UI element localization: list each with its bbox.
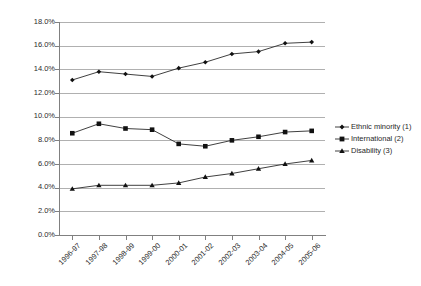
data-point-marker <box>283 130 288 135</box>
diamond-marker-icon <box>334 122 350 132</box>
data-point-marker <box>70 78 75 83</box>
data-point-marker <box>309 158 314 163</box>
data-point-marker <box>97 121 102 126</box>
legend-item-1[interactable]: Ethnic minority (1) <box>334 121 411 132</box>
legend-item-2[interactable]: International (2) <box>334 133 411 144</box>
series-line <box>72 42 311 80</box>
legend-item-3[interactable]: Disability (3) <box>334 145 411 156</box>
data-point-marker <box>203 144 208 149</box>
series-line <box>72 160 311 188</box>
data-point-marker <box>176 66 181 71</box>
series-3 <box>70 158 315 191</box>
data-point-marker <box>256 134 261 139</box>
chart-legend: Ethnic minority (1)International (2)Disa… <box>334 121 411 157</box>
data-point-marker <box>230 52 235 57</box>
data-point-marker <box>97 69 102 74</box>
data-point-marker <box>256 49 261 54</box>
data-point-marker <box>203 60 208 65</box>
data-point-marker <box>150 127 155 132</box>
legend-item-label: Ethnic minority (1) <box>350 122 411 131</box>
data-point-marker <box>309 129 314 134</box>
data-point-marker <box>70 131 75 136</box>
data-point-marker <box>176 142 181 147</box>
series-2 <box>70 121 314 148</box>
legend-item-label: International (2) <box>350 134 404 143</box>
line-chart: 18.0%16.0%14.0%12.0%10.0%8.0%6.0%4.0%2.0… <box>0 0 421 286</box>
data-point-marker <box>123 126 128 131</box>
series-1 <box>70 40 314 82</box>
data-point-marker <box>283 41 288 46</box>
triangle-marker-icon <box>334 146 350 156</box>
data-point-marker <box>123 72 128 77</box>
data-point-marker <box>150 74 155 79</box>
legend-item-label: Disability (3) <box>350 146 392 155</box>
series-line <box>72 124 311 146</box>
data-point-marker <box>309 40 314 45</box>
square-marker-icon <box>334 134 350 144</box>
data-point-marker <box>230 138 235 143</box>
